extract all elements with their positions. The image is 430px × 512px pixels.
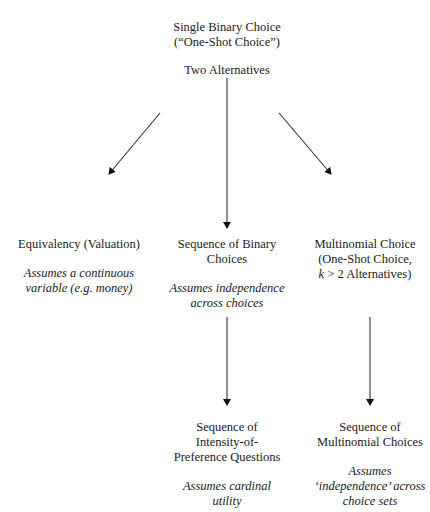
root-title-line1: Single Binary Choice bbox=[147, 20, 307, 35]
node-equivalency: Equivalency (Valuation) Assumes a contin… bbox=[4, 237, 154, 296]
arrow-root-to-equivalency bbox=[109, 113, 160, 174]
node-sequence-binary: Sequence of Binary Choices Assumes indep… bbox=[152, 237, 302, 311]
equivalency-assumption-line2: variable (e.g. money) bbox=[4, 281, 154, 296]
sequence-binary-title-line2: Choices bbox=[152, 252, 302, 267]
intensity-title-line3: Preference Questions bbox=[152, 450, 302, 465]
node-multinomial: Multinomial Choice (One-Shot Choice, k >… bbox=[300, 237, 430, 282]
sequence-multinomial-assumption-line2: ‘independence’ across bbox=[300, 479, 430, 494]
multinomial-title-line1: Multinomial Choice bbox=[300, 237, 430, 252]
intensity-assumption-line1: Assumes cardinal bbox=[152, 479, 302, 494]
multinomial-title-line3: k > 2 Alternatives) bbox=[300, 267, 430, 282]
arrow-root-to-multinomial bbox=[279, 113, 331, 174]
sequence-binary-title-line1: Sequence of Binary bbox=[152, 237, 302, 252]
root-title-line2: (“One-Shot Choice”) bbox=[147, 35, 307, 50]
multinomial-title-line3-rest: > 2 Alternatives) bbox=[324, 267, 411, 281]
sequence-multinomial-assumption-line3: choice sets bbox=[300, 494, 430, 509]
equivalency-assumption-line1: Assumes a continuous bbox=[4, 266, 154, 281]
sequence-multinomial-title-line1: Sequence of bbox=[300, 420, 430, 435]
sequence-binary-assumption-line1: Assumes independence bbox=[152, 281, 302, 296]
node-sequence-multinomial: Sequence of Multinomial Choices Assumes … bbox=[300, 420, 430, 509]
intensity-title-line2: Intensity-of- bbox=[152, 435, 302, 450]
intensity-assumption-line2: utility bbox=[152, 494, 302, 509]
sequence-multinomial-assumption-line1: Assumes bbox=[300, 464, 430, 479]
node-root: Single Binary Choice (“One-Shot Choice”)… bbox=[147, 20, 307, 78]
node-intensity: Sequence of Intensity-of- Preference Que… bbox=[152, 420, 302, 509]
equivalency-title: Equivalency (Valuation) bbox=[4, 237, 154, 252]
intensity-title-line1: Sequence of bbox=[152, 420, 302, 435]
sequence-binary-assumption-line2: across choices bbox=[152, 296, 302, 311]
root-subtitle: Two Alternatives bbox=[147, 63, 307, 78]
sequence-multinomial-title-line2: Multinomial Choices bbox=[300, 435, 430, 450]
multinomial-title-line2: (One-Shot Choice, bbox=[300, 252, 430, 267]
